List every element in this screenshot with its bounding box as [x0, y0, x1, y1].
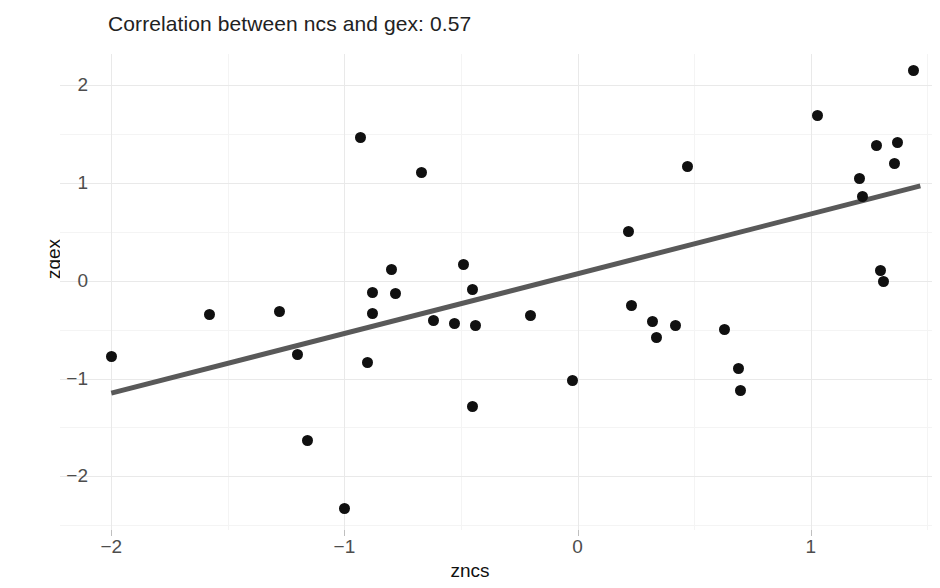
y-tick-label: −1 [44, 368, 88, 390]
data-point [878, 276, 889, 287]
data-point [428, 315, 439, 326]
y-tick-label: 2 [44, 74, 88, 96]
x-tick-label: 0 [548, 536, 608, 558]
data-point [386, 264, 397, 275]
trendline-segment [111, 186, 920, 393]
y-axis-tick-labels: −2−1012 [18, 54, 88, 530]
x-tick-label: −1 [314, 536, 374, 558]
x-axis-tick-labels: −2−101 [60, 536, 932, 566]
trendline [60, 54, 932, 530]
data-point [854, 173, 865, 184]
data-point [871, 140, 882, 151]
x-tick-label: −2 [81, 536, 141, 558]
y-tick-label: 1 [44, 172, 88, 194]
data-point [857, 191, 868, 202]
data-point [367, 287, 378, 298]
data-point [355, 132, 366, 143]
y-tick-label: 0 [44, 270, 88, 292]
x-tick-label: 1 [781, 536, 841, 558]
data-point [449, 318, 460, 329]
data-point [416, 167, 427, 178]
page-title: Correlation between ncs and gex: 0.57 [108, 12, 471, 36]
data-point [302, 435, 313, 446]
data-point [682, 161, 693, 172]
data-point [458, 259, 469, 270]
data-point [647, 316, 658, 327]
scatter-plot-figure: Correlation between ncs and gex: 0.57 zg… [0, 0, 940, 588]
plot-panel [60, 54, 932, 530]
data-point [908, 65, 919, 76]
data-point [735, 385, 746, 396]
data-point [892, 137, 903, 148]
data-point [875, 265, 886, 276]
data-point [339, 503, 350, 514]
data-point [626, 300, 637, 311]
data-point [292, 349, 303, 360]
data-point [470, 320, 481, 331]
data-point [274, 306, 285, 317]
y-tick-label: −2 [44, 465, 88, 487]
